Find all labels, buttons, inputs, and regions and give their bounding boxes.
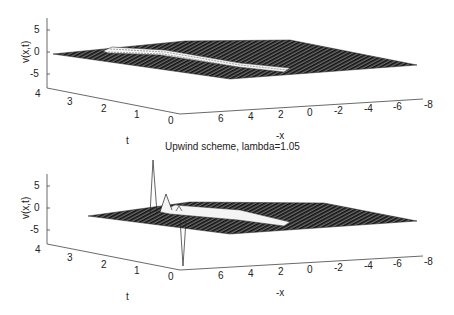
top-x-tick: -8: [424, 100, 433, 110]
bottom-title: Upwind scheme, lambda=1.05: [165, 141, 300, 152]
bottom-xlabel: -x: [276, 288, 284, 298]
top-x-axis: [180, 99, 423, 114]
bottom-x-tick: 6: [218, 271, 224, 281]
bottom-t-tick-0: 0: [168, 272, 174, 282]
bottom-x-tick: -6: [393, 259, 402, 269]
top-x-tick: 6: [218, 114, 224, 124]
bottom-t-tick-1: 1: [134, 266, 140, 276]
chart-canvas: [0, 0, 454, 315]
bottom-z-tick-neg5: -5: [30, 225, 39, 235]
top-t-tick-2: 2: [101, 104, 107, 114]
top-x-tick: -4: [364, 104, 373, 114]
bottom-x-tick: 4: [248, 269, 254, 279]
top-t-tick-3: 3: [67, 97, 73, 107]
bottom-plot: [47, 160, 423, 270]
spike-up-small: [160, 194, 172, 212]
bottom-t-tick-3: 3: [67, 253, 73, 263]
bottom-x-tick: 2: [278, 267, 284, 277]
spike-up-large: [150, 160, 157, 214]
top-t-tick-1: 1: [134, 110, 140, 120]
bottom-x-axis: [180, 256, 423, 270]
top-x-tick: 0: [307, 108, 313, 118]
top-plot: [47, 18, 423, 114]
top-xlabel: -x: [276, 131, 284, 141]
top-x-tick: 4: [248, 112, 254, 122]
top-z-tick-0: 0: [34, 47, 40, 57]
bottom-t-tick-4: 4: [35, 245, 41, 255]
top-x-tick: 2: [278, 110, 284, 120]
bottom-x-tick: -8: [424, 257, 433, 267]
bottom-z-tick-0: 0: [34, 203, 40, 213]
bottom-x-tick: -4: [364, 261, 373, 271]
top-z-tick-5: 5: [34, 25, 40, 35]
bottom-x-tick: -2: [334, 263, 343, 273]
top-x-tick: -6: [393, 102, 402, 112]
top-z-tick-neg5: -5: [30, 69, 39, 79]
top-zlabel: v(x,t): [20, 41, 31, 63]
top-x-tick: -2: [334, 106, 343, 116]
bottom-zlabel: v(x,t): [20, 197, 31, 219]
top-tlabel: t: [126, 136, 129, 146]
bottom-tlabel: t: [126, 292, 129, 302]
bottom-x-tick: 0: [307, 265, 313, 275]
top-t-tick-4: 4: [35, 89, 41, 99]
top-t-tick-0: 0: [168, 116, 174, 126]
bottom-z-tick-5: 5: [34, 181, 40, 191]
top-surface: [53, 40, 417, 79]
bottom-t-tick-2: 2: [101, 260, 107, 270]
